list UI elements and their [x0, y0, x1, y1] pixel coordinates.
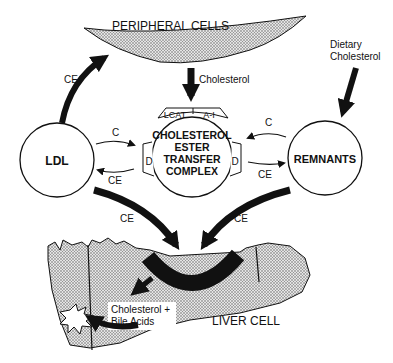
ldl-to-liver-arrow-icon [94, 190, 176, 245]
ce-label-right: CE [258, 169, 272, 180]
complex-line1: CHOLESTEROL [152, 129, 232, 141]
ce-label-remnants-liver: CE [234, 213, 248, 224]
cete-complex: LCAT A-I D D CHOLESTEROL ESTER TRANSFER … [143, 108, 241, 197]
ce-label-ldl-liver: CE [120, 213, 134, 224]
remnants-label: REMNANTS [294, 153, 356, 165]
peripheral-cells: PERIPHERAL CELLS [84, 16, 306, 63]
a1-label: A-I [203, 110, 215, 120]
ce-label: CE [64, 74, 78, 85]
dietary-cholesterol: Dietary Cholesterol [330, 39, 381, 112]
cholesterol-transport-diagram: PERIPHERAL CELLS Dietary Cholesterol Cho… [0, 0, 393, 363]
product-line1: Cholesterol + [111, 304, 170, 315]
cholesterol-arrow-label: Cholesterol [199, 74, 250, 85]
lcat-label: LCAT [164, 110, 187, 120]
liver-cell: Cholesterol + Bile Acids LIVER CELL [48, 238, 310, 350]
curved-arrow-icon [62, 58, 104, 123]
c-label-left: C [112, 127, 119, 138]
dietary-arrow-icon [343, 68, 356, 112]
ldl-label: LDL [45, 154, 68, 168]
peripheral-cells-label: PERIPHERAL CELLS [112, 19, 229, 33]
complex-line2: ESTER [174, 141, 209, 153]
dietary-label-line2: Cholesterol [330, 51, 381, 62]
d-left-label: D [145, 156, 152, 167]
complex-line3: TRANSFER [163, 153, 221, 165]
d-right-label: D [231, 156, 238, 167]
cholesterol-down-arrow: Cholesterol [191, 68, 250, 96]
c-label-right: C [265, 117, 272, 128]
ldl-to-peripheral-arrow: CE [62, 58, 104, 123]
remnants-particle: REMNANTS [288, 121, 362, 195]
liver-cell-label: LIVER CELL [212, 314, 280, 328]
ce-label-left: CE [108, 175, 122, 186]
dietary-label-line1: Dietary [330, 39, 362, 50]
complex-line4: COMPLEX [166, 165, 218, 177]
ldl-particle: LDL [20, 123, 94, 197]
